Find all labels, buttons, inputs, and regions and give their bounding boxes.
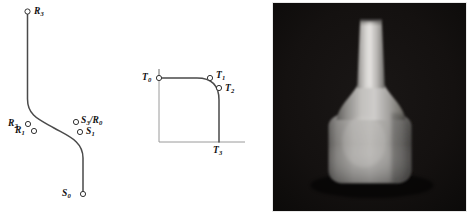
vase-render-canvas [273, 3, 466, 211]
label-T0: T0 [142, 73, 151, 83]
marker-R3 [25, 9, 30, 14]
label-S0: S0 [62, 189, 71, 199]
vase-rim-top [360, 19, 382, 22]
rounded-corner-profile-diagram: T0 T1 T2 T3 [140, 0, 270, 214]
label-T2: T2 [225, 84, 234, 94]
label-S3-over-R0: S3/R0 [81, 116, 102, 126]
label-S1: S1 [86, 127, 95, 137]
spline-canvas [0, 0, 140, 214]
marker-S3-R0 [73, 119, 78, 124]
body-specular [342, 116, 386, 168]
marker-S0 [80, 191, 85, 196]
profile-corner-curve [159, 78, 219, 142]
marker-T0 [156, 75, 161, 80]
neck-specular [367, 25, 371, 86]
figure-root: R3 R2 R1 S3/R0 S1 S0 [0, 0, 469, 214]
body-terminator [392, 113, 412, 183]
marker-R1 [31, 128, 36, 133]
photo-frame [272, 2, 467, 212]
label-T1: T1 [216, 71, 225, 81]
label-R3: R3 [34, 7, 44, 17]
marker-R2 [25, 121, 30, 126]
marker-T1 [207, 75, 212, 80]
marker-T2 [216, 85, 221, 90]
profile-canvas [140, 0, 270, 214]
label-R1: R1 [15, 126, 25, 136]
spline-curve [28, 12, 84, 194]
marker-S1 [77, 129, 82, 134]
control-polygon-spline-diagram: R3 R2 R1 S3/R0 S1 S0 [0, 0, 140, 214]
rendered-vase-photograph [270, 0, 469, 214]
label-T3: T3 [213, 146, 222, 156]
